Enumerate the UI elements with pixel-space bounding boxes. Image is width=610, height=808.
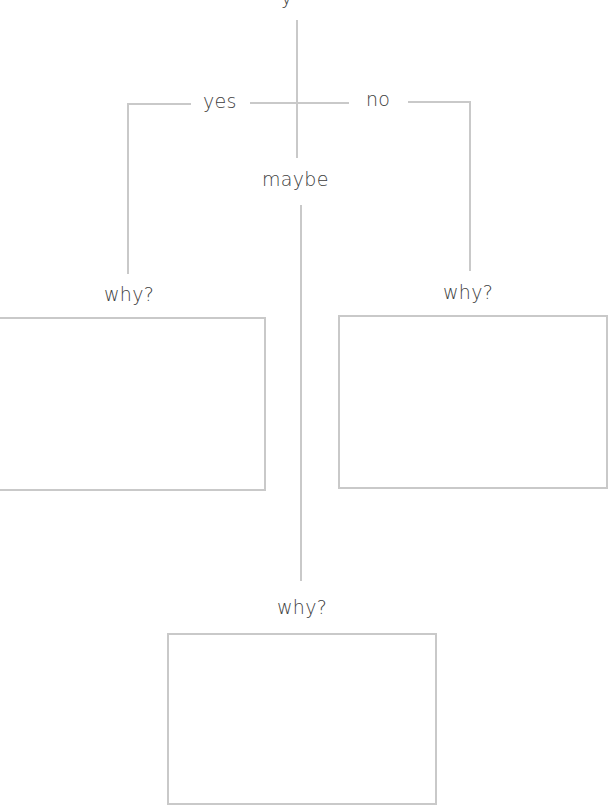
answer-box-bottom[interactable] [167, 633, 437, 805]
no-branch-line [408, 101, 470, 103]
trunk-line [296, 20, 298, 158]
top-label-fragment: y [281, 0, 293, 7]
answer-box-left[interactable] [0, 317, 266, 491]
yes-branch-line-right [250, 102, 349, 104]
why-label-left: why? [104, 285, 154, 304]
answer-box-right[interactable] [338, 315, 608, 489]
maybe-branch-drop [300, 205, 302, 581]
yes-branch-line-left [127, 103, 191, 105]
why-label-bottom: why? [277, 598, 327, 617]
no-branch-drop [469, 101, 471, 271]
why-label-right: why? [443, 283, 493, 302]
no-label: no [366, 90, 390, 109]
yes-branch-drop [127, 103, 129, 274]
yes-label: yes [203, 92, 237, 111]
maybe-label: maybe [262, 170, 329, 189]
